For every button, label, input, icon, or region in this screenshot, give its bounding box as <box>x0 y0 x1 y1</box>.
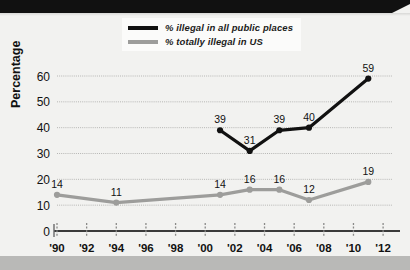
x-axis-tick-label: '98 <box>168 242 184 254</box>
data-point-label: 16 <box>244 173 256 185</box>
x-axis-tick-label: '08 <box>316 242 332 254</box>
data-point <box>247 187 253 193</box>
x-axis-tick-label: '10 <box>346 242 362 254</box>
x-axis-tick-label: '02 <box>227 242 243 254</box>
data-point-label: 31 <box>244 134 256 146</box>
x-axis-tick-label: '94 <box>109 242 125 254</box>
bottom-decorative-band <box>0 256 410 270</box>
data-point-label: 59 <box>362 62 374 74</box>
x-axis-tick-label: '06 <box>286 242 302 254</box>
data-point-label: 11 <box>111 186 122 198</box>
x-axis-tick-label: '90 <box>49 242 65 254</box>
data-point <box>276 127 282 133</box>
y-axis-tick-label: 30 <box>37 147 51 161</box>
data-point <box>217 127 223 133</box>
data-point <box>365 179 371 185</box>
plot-area: 0102030405060'90'92'94'96'98'00'02'04'06… <box>0 0 410 270</box>
x-axis-tick-label: '96 <box>138 242 154 254</box>
x-axis-tick-label: '04 <box>257 242 273 254</box>
y-axis-tick-label: 20 <box>37 173 51 187</box>
data-point-label: 16 <box>274 173 286 185</box>
x-axis-tick-label: '92 <box>79 242 95 254</box>
data-point-label: 39 <box>274 113 286 125</box>
series-line <box>57 182 368 203</box>
data-point <box>306 197 312 203</box>
y-axis-tick-label: 40 <box>37 121 51 135</box>
data-point <box>276 187 282 193</box>
y-axis-tick-label: 0 <box>43 225 50 239</box>
data-point <box>113 199 119 205</box>
data-point-label: 14 <box>214 178 226 190</box>
x-axis-tick-label: '12 <box>375 242 391 254</box>
data-point <box>54 192 60 198</box>
y-axis-tick-label: 50 <box>37 95 51 109</box>
y-axis-tick-label: 60 <box>37 70 51 84</box>
data-point <box>365 75 371 81</box>
data-point-label: 40 <box>303 111 315 123</box>
data-point <box>247 148 253 154</box>
data-point <box>306 125 312 131</box>
chart-figure: % illegal in all public places % totally… <box>0 0 410 270</box>
data-point-label: 14 <box>51 178 63 190</box>
data-point-label: 19 <box>362 165 374 177</box>
data-point-label: 12 <box>303 183 315 195</box>
series-line <box>220 79 368 151</box>
series-illegal-public-places: 3931394059 <box>214 62 374 154</box>
series-totally-illegal-us: 14111416161219 <box>51 165 374 206</box>
data-point-label: 39 <box>214 113 226 125</box>
data-point <box>217 192 223 198</box>
y-axis-tick-label: 10 <box>37 199 51 213</box>
x-axis-tick-label: '00 <box>197 242 213 254</box>
